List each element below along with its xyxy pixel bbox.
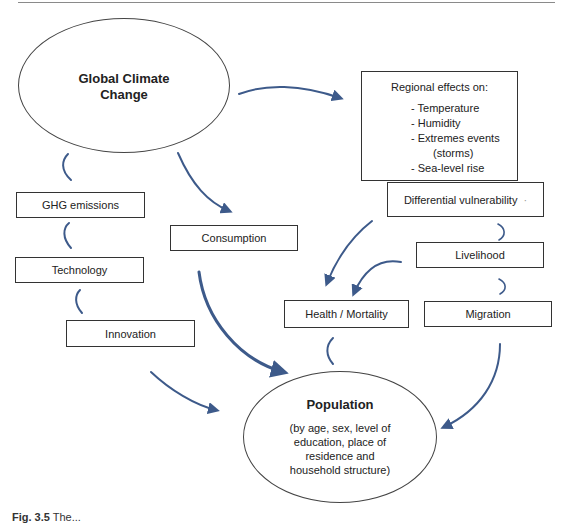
arrow-innovation-to-population xyxy=(151,372,216,410)
ghg-emissions-label: GHG emissions xyxy=(42,199,119,211)
population-node: Population (by age, sex, level of educat… xyxy=(243,371,437,503)
global-climate-change-line2: Change xyxy=(19,87,229,103)
innovation-node: Innovation xyxy=(66,320,195,347)
population-detail-line: residence and xyxy=(244,449,436,463)
technology-label: Technology xyxy=(52,264,108,276)
arrow-ghg-to-gcc xyxy=(63,154,71,180)
global-climate-change-line1: Global Climate xyxy=(19,71,229,87)
figure-caption: Fig. 3.5 The... xyxy=(12,511,81,523)
arrow-livelihood-to-migration xyxy=(499,279,505,294)
technology-node: Technology xyxy=(15,257,144,283)
arrow-health-to-population xyxy=(327,338,333,364)
livelihood-node: Livelihood xyxy=(416,242,544,268)
population-detail-line: (by age, sex, level of xyxy=(244,421,436,435)
livelihood-label: Livelihood xyxy=(455,249,505,261)
arrow-tech-to-ghg xyxy=(64,223,71,248)
ghg-emissions-node: GHG emissions xyxy=(16,192,145,218)
differential-vulnerability-node: Differential vulnerability · xyxy=(387,182,544,217)
regional-effect-item: - Sea-level rise xyxy=(411,161,517,176)
arrow-consumption-to-population xyxy=(199,272,283,372)
figure-caption-label: Fig. 3.5 xyxy=(12,511,50,523)
arrow-gcc-to-regional xyxy=(239,87,340,98)
regional-effects-node: Regional effects on: - Temperature - Hum… xyxy=(361,71,518,181)
consumption-node: Consumption xyxy=(170,225,298,251)
arrow-livelihood-to-health xyxy=(354,261,401,293)
population-title: Population xyxy=(244,397,436,413)
arrow-gcc-to-consumption xyxy=(178,153,229,211)
migration-node: Migration xyxy=(424,301,552,327)
population-detail-line: education, place of xyxy=(244,435,436,449)
regional-effect-item: (storms) xyxy=(411,146,517,161)
regional-effect-item: - Extremes events xyxy=(411,131,517,146)
regional-effect-item: - Temperature xyxy=(411,101,517,116)
consumption-label: Consumption xyxy=(202,232,267,244)
global-climate-change-node: Global Climate Change xyxy=(18,18,230,153)
health-mortality-label: Health / Mortality xyxy=(305,308,388,320)
arrow-innov-to-tech xyxy=(76,290,82,313)
arrow-migration-to-population xyxy=(444,344,500,427)
differential-vulnerability-mark: · xyxy=(523,194,527,206)
regional-effects-heading: Regional effects on: xyxy=(362,80,517,95)
population-detail-line: household structure) xyxy=(244,463,436,477)
arrow-diff-to-livelihood xyxy=(498,224,504,240)
health-mortality-node: Health / Mortality xyxy=(284,300,409,328)
regional-effect-item: - Humidity xyxy=(411,116,517,131)
differential-vulnerability-label: Differential vulnerability xyxy=(404,194,518,206)
figure-caption-text: The... xyxy=(53,511,81,523)
migration-label: Migration xyxy=(465,308,510,320)
innovation-label: Innovation xyxy=(105,328,156,340)
